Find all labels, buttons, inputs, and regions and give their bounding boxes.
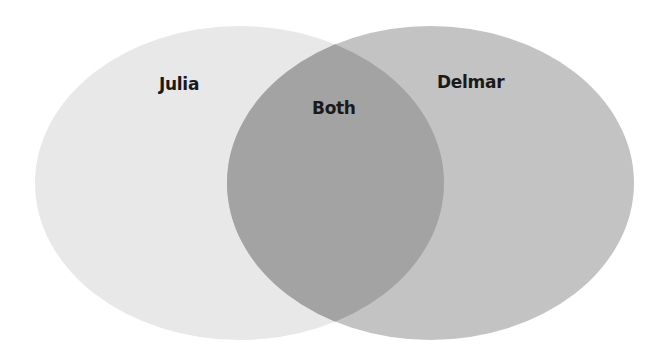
julia-label: Julia [158, 74, 199, 94]
delmar-label: Delmar [437, 72, 505, 92]
both-label: Both [312, 98, 356, 118]
venn-diagram: Julia Both Delmar [0, 0, 665, 364]
